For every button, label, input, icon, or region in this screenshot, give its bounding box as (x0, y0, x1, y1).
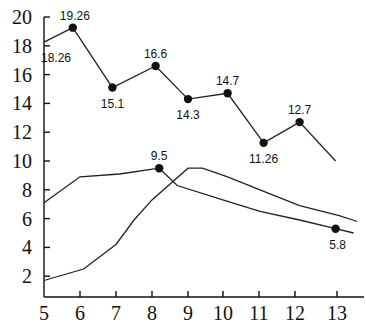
data-point-marker (295, 118, 303, 126)
data-labels: 18.2619.2615.116.614.314.711.2612.79.55.… (41, 9, 346, 252)
data-label: 5.8 (329, 238, 346, 252)
y-tick-label: 14 (12, 92, 32, 114)
data-point-marker (155, 164, 163, 172)
y-tick-label: 4 (22, 236, 32, 258)
data-label: 14.3 (176, 108, 200, 122)
x-tick-label: 9 (183, 302, 193, 324)
series-layer (44, 23, 357, 280)
x-tick-label: 6 (75, 302, 85, 324)
x-tick-label: 10 (213, 302, 233, 324)
data-point-marker (223, 89, 231, 97)
data-point-marker (259, 139, 267, 147)
y-axis: 2468101214161820 (12, 6, 50, 297)
data-label: 18.26 (41, 51, 71, 65)
line-chart: 2468101214161820 5678910111213 18.2619.2… (0, 0, 366, 325)
y-tick-label: 16 (12, 64, 32, 86)
series-late-peak-line (44, 168, 357, 280)
data-point-marker (184, 95, 192, 103)
data-label: 16.6 (144, 47, 168, 61)
x-tick-label: 8 (147, 302, 157, 324)
y-tick-label: 18 (12, 35, 32, 57)
data-label: 9.5 (151, 149, 168, 163)
data-point-marker (108, 83, 116, 91)
y-tick-label: 8 (22, 179, 32, 201)
data-label: 11.26 (249, 152, 278, 166)
x-tick-label: 12 (285, 302, 305, 324)
data-point-marker (69, 23, 77, 31)
data-label: 15.1 (101, 97, 125, 111)
y-tick-label: 12 (12, 121, 32, 143)
data-label: 19.26 (60, 9, 90, 23)
series-early-peak-line (44, 168, 354, 233)
y-tick-label: 20 (12, 6, 32, 28)
x-tick-label: 13 (327, 302, 347, 324)
y-tick-label: 2 (22, 265, 32, 287)
y-tick-label: 10 (12, 150, 32, 172)
data-point-marker (331, 224, 339, 232)
y-tick-label: 6 (22, 208, 32, 230)
data-label: 14.7 (216, 74, 240, 88)
data-point-marker (151, 62, 159, 70)
series-top-line (44, 28, 336, 161)
x-axis: 5678910111213 (39, 291, 364, 324)
x-tick-label: 11 (249, 302, 268, 324)
x-tick-label: 5 (39, 302, 49, 324)
x-tick-label: 7 (111, 302, 121, 324)
data-label: 12.7 (288, 103, 312, 117)
